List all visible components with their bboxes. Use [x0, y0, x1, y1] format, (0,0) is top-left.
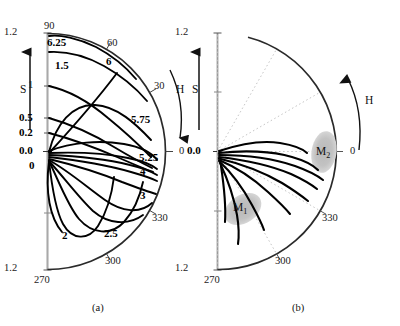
tick-label-a-0-0: 0.0 [19, 145, 33, 156]
panel-b-graphic [200, 0, 400, 326]
marker-label-m1-sub: 1 [243, 207, 247, 216]
contour-label-a-6: 6 [106, 56, 112, 67]
tick-label-a-zero: 0 [29, 160, 35, 171]
tick-label-a-top-1-2: 1.2 [4, 27, 17, 38]
s-axis-label-b: S [192, 84, 198, 96]
contour-label-a-5-75: 5.75 [131, 114, 150, 125]
angle-label-a-30: 30 [154, 81, 165, 92]
tick-label-a-0-5: 0.5 [19, 112, 33, 123]
angle-label-b-270: 270 [204, 275, 220, 286]
marker-label-m2-base: M [316, 145, 326, 157]
tick-label-a-1: 1 [28, 80, 33, 91]
angle-label-b-0: 0 [350, 146, 355, 157]
panel-caption-b: (b) [292, 303, 304, 314]
contour-label-a-5-25: 5.25 [139, 152, 158, 163]
contour-label-a-6-25: 6.25 [47, 37, 66, 48]
contour-label-a-3: 3 [140, 190, 146, 201]
figure-container: 1.2 1 0.5 0.2 0.0 0 1.2 S H 90 60 30 0 3… [0, 0, 400, 326]
angle-label-a-330: 330 [152, 213, 168, 224]
angle-label-a-90: 90 [44, 21, 55, 32]
angle-label-a-0: 0 [179, 146, 184, 157]
tick-label-a-bottom-1-2: 1.2 [4, 263, 17, 274]
tick-label-b-0-0: 0.0 [187, 145, 201, 156]
s-axis-label-a: S [20, 84, 26, 96]
h-arrow-a [170, 70, 181, 138]
h-arrow-b [348, 79, 360, 150]
panel-b: 1.2 0.0 1.2 S H 0 330 300 270 M1 M2 (b) [200, 0, 400, 326]
h-axis-label-a: H [176, 84, 184, 96]
angle-label-a-270: 270 [34, 275, 50, 286]
marker-label-m1: M1 [233, 202, 247, 216]
angle-label-b-300: 300 [275, 256, 291, 267]
angular-ticks-b [277, 152, 344, 261]
contour-label-a-2-5: 2.5 [104, 228, 118, 239]
tick-label-b-bottom-1-2: 1.2 [175, 263, 188, 274]
marker-label-m1-base: M [233, 201, 243, 213]
panel-a: 1.2 1 0.5 0.2 0.0 0 1.2 S H 90 60 30 0 3… [0, 0, 200, 326]
contour-label-a-4: 4 [140, 166, 146, 177]
marker-label-m2: M2 [316, 146, 330, 160]
marker-label-m2-sub: 2 [326, 151, 330, 160]
angle-label-a-300: 300 [105, 256, 121, 267]
tick-label-b-top-1-2: 1.2 [175, 27, 188, 38]
panel-caption-a: (a) [92, 303, 104, 314]
contour-label-a-2: 2 [62, 230, 68, 241]
h-axis-label-b: H [365, 95, 373, 107]
contour-label-a-1-5: 1.5 [55, 60, 69, 71]
angle-label-a-60: 60 [107, 38, 118, 49]
tick-label-a-0-2: 0.2 [19, 127, 33, 138]
angle-label-b-330: 330 [322, 213, 338, 224]
